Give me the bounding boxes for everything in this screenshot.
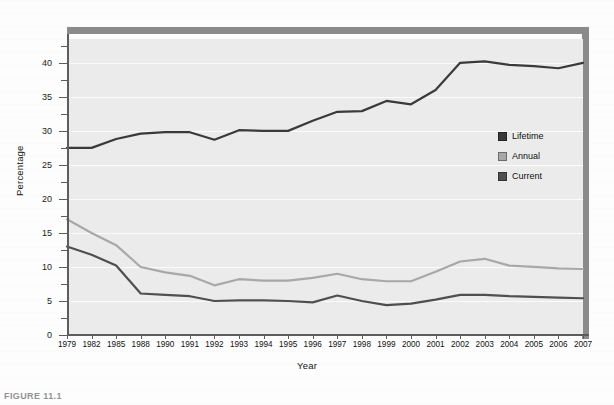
y-tick <box>61 250 67 251</box>
y-tick <box>61 46 67 47</box>
legend-swatch-icon <box>498 152 507 161</box>
x-tick-label: 1985 <box>107 341 125 349</box>
x-tick-label: 2006 <box>549 341 567 349</box>
x-tick-label: 1991 <box>181 341 199 349</box>
y-tick <box>61 80 67 81</box>
y-tick <box>61 216 67 217</box>
x-tick-label: 2004 <box>500 341 518 349</box>
x-tick-label: 1998 <box>353 341 371 349</box>
x-tick <box>288 334 289 339</box>
x-tick <box>485 334 486 339</box>
figure-container: 0510152025303540 19791982198519881990199… <box>0 0 614 405</box>
y-tick <box>59 63 67 64</box>
legend-item-annual: Annual <box>498 152 544 161</box>
y-tick <box>59 131 67 132</box>
y-tick-label: 40 <box>42 58 52 67</box>
y-tick <box>59 335 67 336</box>
y-tick <box>61 148 67 149</box>
legend-item-lifetime: Lifetime <box>498 132 544 141</box>
x-tick-label: 2000 <box>402 341 420 349</box>
chart-frame: 0510152025303540 19791982198519881990199… <box>56 27 589 339</box>
y-tick-label: 30 <box>42 126 52 135</box>
chart-legend: LifetimeAnnualCurrent <box>498 132 544 181</box>
y-tick-label: 10 <box>42 262 52 271</box>
y-axis-label: Percentage <box>14 145 25 196</box>
x-tick <box>116 334 117 339</box>
x-tick <box>386 334 387 339</box>
x-tick <box>436 334 437 339</box>
x-tick <box>460 334 461 339</box>
x-tick <box>509 334 510 339</box>
x-tick-label: 1979 <box>58 341 76 349</box>
x-tick-label: 1988 <box>132 341 150 349</box>
x-tick-label: 2001 <box>426 341 444 349</box>
x-tick <box>264 334 265 339</box>
series-lines <box>67 39 583 335</box>
y-tick <box>59 199 67 200</box>
x-tick-label: 1992 <box>205 341 223 349</box>
legend-label: Current <box>512 172 542 181</box>
x-tick-label: 2005 <box>525 341 543 349</box>
x-tick <box>337 334 338 339</box>
x-tick <box>239 334 240 339</box>
x-tick <box>558 334 559 339</box>
x-tick-label: 1995 <box>279 341 297 349</box>
x-tick <box>92 334 93 339</box>
x-tick-label: 2002 <box>451 341 469 349</box>
y-tick <box>61 318 67 319</box>
y-tick-label: 5 <box>47 296 52 305</box>
x-tick <box>165 334 166 339</box>
y-tick-label: 25 <box>42 160 52 169</box>
x-tick <box>214 334 215 339</box>
x-tick <box>583 334 584 339</box>
legend-label: Lifetime <box>512 132 544 141</box>
x-tick-label: 1990 <box>156 341 174 349</box>
x-tick-label: 1994 <box>254 341 272 349</box>
legend-swatch-icon <box>498 172 507 181</box>
x-tick-label: 1982 <box>82 341 100 349</box>
x-tick-label: 1996 <box>304 341 322 349</box>
x-tick-label: 1999 <box>377 341 395 349</box>
x-tick <box>141 334 142 339</box>
y-tick <box>59 233 67 234</box>
legend-item-current: Current <box>498 172 544 181</box>
y-tick <box>61 284 67 285</box>
y-tick <box>61 182 67 183</box>
x-tick <box>313 334 314 339</box>
y-tick-label: 15 <box>42 228 52 237</box>
x-tick <box>362 334 363 339</box>
x-tick <box>411 334 412 339</box>
x-axis-label: Year <box>0 360 614 371</box>
y-tick <box>59 97 67 98</box>
figure-caption: FIGURE 11.1 <box>4 391 62 401</box>
legend-swatch-icon <box>498 132 507 141</box>
x-tick <box>67 334 68 339</box>
x-tick-label: 2003 <box>476 341 494 349</box>
y-tick <box>61 114 67 115</box>
y-tick-label: 20 <box>42 194 52 203</box>
frame-bar-right <box>582 27 589 339</box>
x-tick <box>190 334 191 339</box>
y-tick <box>59 301 67 302</box>
x-axis-line <box>67 334 589 336</box>
x-tick-label: 1993 <box>230 341 248 349</box>
y-tick-label: 0 <box>47 331 52 340</box>
x-tick <box>534 334 535 339</box>
plot-area <box>67 39 583 335</box>
y-tick-label: 35 <box>42 92 52 101</box>
series-line-annual <box>67 219 583 285</box>
y-tick <box>59 165 67 166</box>
frame-bar-top <box>67 27 589 34</box>
x-tick-label: 2007 <box>574 341 592 349</box>
x-tick-label: 1997 <box>328 341 346 349</box>
legend-label: Annual <box>512 152 540 161</box>
y-axis-line <box>67 34 69 335</box>
y-tick <box>59 267 67 268</box>
